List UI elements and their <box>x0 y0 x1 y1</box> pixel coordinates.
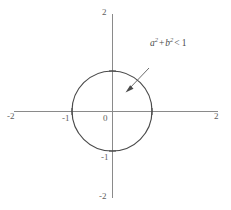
annotation-relation-operator: < <box>173 38 180 48</box>
inequality-annotation: a2+b2<1 <box>150 39 187 49</box>
coordinate-plot <box>0 0 231 210</box>
figure-canvas: -2 2 2 -2 0 -1 -1 a2+b2<1 <box>0 0 231 210</box>
axis-label-y-negative-one: -1 <box>101 153 109 162</box>
axis-label-y-top: 2 <box>102 8 107 17</box>
annotation-arrow-shaft <box>129 68 149 89</box>
axis-label-origin: 0 <box>103 114 108 123</box>
axis-label-x-right: 2 <box>214 112 219 121</box>
axis-label-x-negative-one: -1 <box>62 114 70 123</box>
annotation-bound-value: 1 <box>181 38 188 48</box>
axis-label-y-bottom: -2 <box>99 192 107 201</box>
axis-label-x-left: -2 <box>7 112 15 121</box>
annotation-arrow-head <box>126 85 134 92</box>
